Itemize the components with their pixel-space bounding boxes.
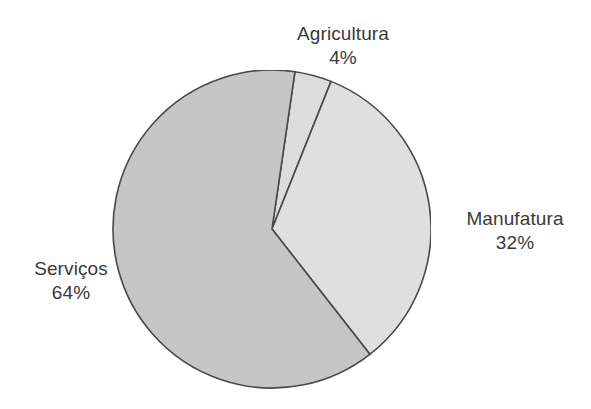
pie-label-servicos: Serviços 64% (34, 257, 108, 306)
pie-label-manufatura-value: 32% (466, 231, 563, 255)
pie-slices (113, 70, 431, 388)
pie-label-agricultura: Agricultura 4% (297, 22, 389, 71)
pie-label-agricultura-value: 4% (297, 46, 389, 70)
pie-label-servicos-value: 64% (34, 281, 108, 305)
pie-label-manufatura-name: Manufatura (466, 207, 563, 231)
pie-chart: Agricultura 4% Manufatura 32% Serviços 6… (0, 0, 591, 409)
pie-label-agricultura-name: Agricultura (297, 22, 389, 46)
pie-label-servicos-name: Serviços (34, 257, 108, 281)
pie-label-manufatura: Manufatura 32% (466, 207, 563, 256)
pie-chart-canvas (0, 0, 591, 409)
